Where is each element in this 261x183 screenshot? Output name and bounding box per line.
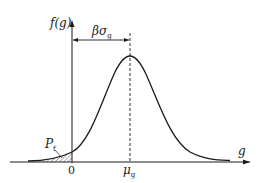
y-axis-label: f(g) bbox=[49, 16, 72, 30]
pdf-diagram: f(g) βσg g 0 μg Pf bbox=[0, 0, 261, 183]
x-axis-label: g bbox=[238, 144, 246, 158]
mean-label: μg bbox=[123, 163, 136, 179]
origin-label: 0 bbox=[68, 164, 75, 177]
dimension-arrow-right-icon bbox=[124, 38, 129, 42]
x-axis-arrow-icon bbox=[243, 160, 250, 165]
beta-sigma-label: βσg bbox=[91, 24, 112, 40]
density-curve bbox=[28, 56, 230, 161]
dimension-arrow-left-icon bbox=[73, 38, 78, 42]
failure-probability-label: Pf bbox=[44, 137, 57, 153]
